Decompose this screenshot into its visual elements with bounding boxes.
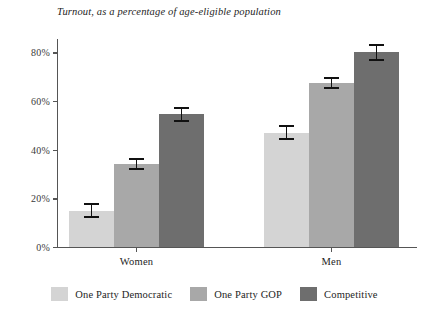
y-axis-tick-mark bbox=[53, 52, 58, 53]
y-axis-tick-mark bbox=[53, 101, 58, 102]
error-bar bbox=[324, 77, 339, 89]
y-axis-tick-label: 0% bbox=[36, 242, 50, 253]
legend-item[interactable]: One Party Democratic bbox=[51, 287, 172, 301]
bar bbox=[114, 164, 159, 247]
caption-sliver bbox=[0, 316, 429, 325]
error-bar-cap-top bbox=[84, 203, 99, 205]
x-axis-group-label: Men bbox=[322, 256, 342, 267]
error-bar bbox=[174, 107, 189, 122]
error-bar-cap-top bbox=[324, 77, 339, 79]
legend-swatch bbox=[300, 287, 317, 301]
bar bbox=[159, 114, 204, 247]
legend-label: One Party Democratic bbox=[75, 289, 172, 300]
error-bar-cap-top bbox=[129, 158, 144, 160]
error-bar-cap-bottom bbox=[324, 87, 339, 89]
y-axis-line bbox=[57, 39, 58, 248]
bar bbox=[309, 83, 354, 247]
x-axis-tick-mark bbox=[136, 247, 137, 252]
error-bar-cap-top bbox=[369, 44, 384, 46]
y-axis-tick-label: 40% bbox=[31, 144, 50, 155]
y-axis-tick-label: 60% bbox=[31, 96, 50, 107]
bar bbox=[264, 133, 309, 247]
y-axis-tick-mark bbox=[53, 150, 58, 151]
legend-label: Competitive bbox=[324, 289, 378, 300]
legend-swatch bbox=[51, 287, 68, 301]
error-bar-cap-bottom bbox=[129, 168, 144, 170]
error-bar bbox=[84, 203, 99, 218]
error-bar bbox=[279, 125, 294, 140]
legend-item[interactable]: Competitive bbox=[300, 287, 378, 301]
x-axis-group-label: Women bbox=[120, 256, 153, 267]
error-bar-cap-top bbox=[279, 125, 294, 127]
legend-item[interactable]: One Party GOP bbox=[190, 287, 282, 301]
legend-swatch bbox=[190, 287, 207, 301]
y-axis-tick-label: 20% bbox=[31, 193, 50, 204]
chart-title: Turnout, as a percentage of age-eligible… bbox=[57, 6, 281, 17]
error-bar-cap-bottom bbox=[369, 59, 384, 61]
error-bar-cap-bottom bbox=[279, 138, 294, 140]
x-axis-line bbox=[56, 247, 417, 248]
x-axis-tick-mark bbox=[331, 247, 332, 252]
bar bbox=[354, 52, 399, 247]
chart-figure: Turnout, as a percentage of age-eligible… bbox=[0, 0, 429, 325]
y-axis-tick-mark bbox=[53, 247, 58, 248]
error-bar-cap-top bbox=[174, 107, 189, 109]
chart-legend: One Party DemocraticOne Party GOPCompeti… bbox=[0, 287, 429, 301]
plot-area: 0%20%40%60%80% WomenMen bbox=[57, 28, 417, 248]
y-axis-tick-mark bbox=[53, 198, 58, 199]
y-axis-tick-label: 80% bbox=[31, 47, 50, 58]
error-bar bbox=[369, 44, 384, 61]
error-bar-cap-bottom bbox=[84, 216, 99, 218]
legend-label: One Party GOP bbox=[214, 289, 282, 300]
error-bar bbox=[129, 158, 144, 170]
error-bar-cap-bottom bbox=[174, 120, 189, 122]
